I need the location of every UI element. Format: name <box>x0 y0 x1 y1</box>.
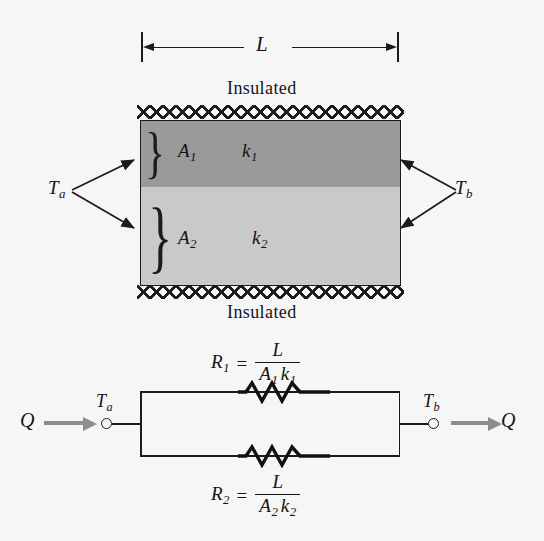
insulated-label-bottom: Insulated <box>227 303 297 321</box>
resistor-symbol-r1 <box>238 380 330 404</box>
equation-r2-denominator: A2k2 <box>255 495 300 519</box>
insulation-hatch-bottom <box>137 285 404 299</box>
circuit-node-tb <box>428 418 439 429</box>
conductivity-label-lower: k2 <box>252 228 267 251</box>
resistor-symbol-r2 <box>238 444 330 468</box>
equation-r2: R2 = L A2k2 <box>211 472 300 519</box>
heat-flow-arrow-in-head-icon <box>83 417 97 431</box>
thermal-resistance-figure: L Insulated Insulated } } A1 k1 A2 k2 Ta… <box>0 0 544 541</box>
circuit-label-ta: Ta <box>96 392 113 413</box>
dimension-arrow-right-icon <box>386 43 397 51</box>
heat-flow-label-in: Q <box>20 410 34 430</box>
dimension-line-right <box>292 47 390 49</box>
equation-r2-fraction: L A2k2 <box>255 472 300 519</box>
temperature-label-ta-slab: Ta <box>48 178 66 201</box>
dimension-arrow-left-icon <box>143 43 154 51</box>
insulated-label-top: Insulated <box>227 79 297 97</box>
equation-r2-lhs: R2 <box>211 483 230 508</box>
area-label-lower: A2 <box>178 228 197 251</box>
heat-flow-label-out: Q <box>501 410 515 430</box>
equation-r2-equals: = <box>237 485 248 507</box>
length-label: L <box>256 34 268 55</box>
equation-r1-numerator: L <box>266 340 289 362</box>
conductivity-label-upper: k1 <box>242 141 257 164</box>
heat-flow-arrow-out-shaft <box>451 421 489 425</box>
equation-r1-equals: = <box>237 353 248 375</box>
heat-flow-arrow-out-head-icon <box>488 417 502 431</box>
ta-pointer-arrows <box>70 148 150 238</box>
dimension-line-left <box>150 47 244 49</box>
circuit-label-tb: Tb <box>423 392 440 413</box>
dimension-tick-right <box>397 32 399 62</box>
equation-r2-numerator: L <box>266 472 289 494</box>
circuit-node-ta <box>101 418 112 429</box>
equation-r1-lhs: R1 <box>211 351 230 376</box>
circuit-lead-right <box>399 423 428 425</box>
insulation-hatch-top <box>137 105 404 119</box>
area-label-upper: A1 <box>178 141 197 164</box>
tb-pointer-arrows <box>396 148 476 238</box>
area-brace-lower: } <box>148 190 172 282</box>
circuit-lead-left <box>112 423 141 425</box>
heat-flow-arrow-in-shaft <box>44 421 84 425</box>
